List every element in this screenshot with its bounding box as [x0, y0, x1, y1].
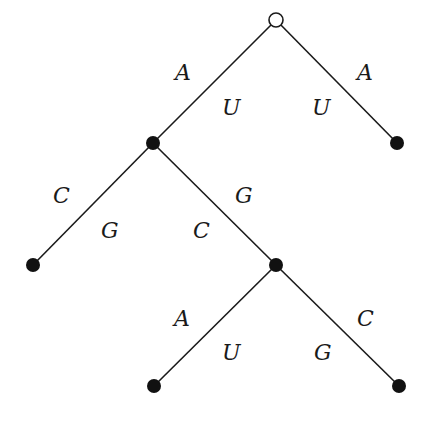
- node-n3: [26, 258, 40, 272]
- label-e1-outer: A: [355, 60, 373, 85]
- node-n2: [390, 136, 404, 150]
- label-e5-outer: C: [357, 306, 374, 331]
- label-e3-inner: C: [193, 218, 210, 243]
- node-n6: [392, 379, 406, 393]
- label-e0-outer: A: [173, 60, 191, 85]
- node-n5: [147, 379, 161, 393]
- edge-n1-left: [33, 143, 153, 265]
- edge-n4-left: [154, 265, 276, 386]
- edge-n4-right: [276, 265, 399, 386]
- tree-diagram: A U A U C G G C A U C G: [0, 0, 427, 422]
- edge-root-left: [153, 20, 276, 143]
- root-node: [269, 13, 283, 27]
- label-e1-inner: U: [312, 95, 332, 120]
- edge-root-right: [276, 20, 397, 143]
- label-e0-inner: U: [222, 95, 242, 120]
- label-e2-inner: G: [101, 218, 119, 243]
- label-e4-outer: A: [172, 306, 190, 331]
- label-e5-inner: G: [314, 340, 332, 365]
- edge-labels: A U A U C G G C A U C G: [53, 60, 374, 365]
- edges: [33, 20, 399, 386]
- label-e4-inner: U: [222, 340, 242, 365]
- edge-n1-right: [153, 143, 276, 265]
- label-e2-outer: C: [53, 183, 70, 208]
- node-n1: [146, 136, 160, 150]
- node-n4: [269, 258, 283, 272]
- label-e3-outer: G: [235, 183, 253, 208]
